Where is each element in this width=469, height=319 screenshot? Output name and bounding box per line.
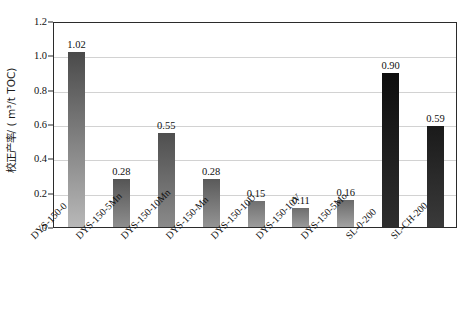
bar[interactable] [382, 21, 399, 227]
y-axis-title: 校正产率/ ( m³/t TOC) [0, 0, 22, 240]
bar[interactable] [68, 21, 85, 227]
bar-rect [68, 52, 85, 227]
y-axis-tick-label: 0.4 [34, 154, 47, 165]
bar-chart: 校正产率/ ( m³/t TOC) 00.20.40.60.81.01.2 1.… [0, 0, 469, 319]
y-axis-tick-label: 1.0 [34, 51, 47, 62]
bar-rect [158, 133, 175, 227]
y-axis-tick-labels: 00.20.40.60.81.01.2 [20, 0, 50, 240]
bar[interactable] [427, 21, 444, 227]
y-axis-title-label: 校正产率/ ( m³/t TOC) [4, 67, 19, 173]
y-axis-tick-label: 0.6 [34, 120, 47, 131]
x-axis-tick-labels: DYS-150-0DYS-150-5MnDYS-150-10MnDYS-150-… [53, 228, 457, 319]
y-axis-tick-label: 1.2 [34, 17, 47, 28]
bar-rect [382, 73, 399, 228]
y-axis-tick-label: 0.2 [34, 188, 47, 199]
y-axis-tick-label: 0.8 [34, 85, 47, 96]
bar-rect [427, 126, 444, 227]
